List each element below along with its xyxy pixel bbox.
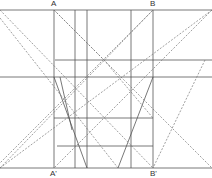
slant-2	[118, 77, 153, 168]
diagram-svg	[0, 0, 212, 178]
diag-right-mid	[153, 60, 205, 168]
label-A-prime: A'	[50, 170, 57, 178]
dashed-lines	[0, 10, 212, 168]
label-A: A	[51, 0, 56, 8]
diag-tl-2	[0, 18, 118, 168]
perspective-construction-diagram: A B A' B'	[0, 0, 212, 178]
label-B: B	[150, 0, 155, 8]
diag-A-short	[54, 10, 104, 60]
diag-tr-to-bl	[0, 10, 212, 168]
diag-mid-1	[104, 60, 153, 118]
label-B-prime: B'	[150, 170, 157, 178]
